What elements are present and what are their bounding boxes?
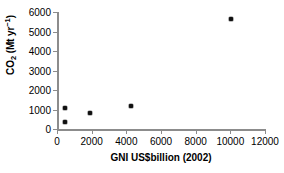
y-tick-label: 0 bbox=[45, 124, 51, 135]
x-tick-mark bbox=[230, 130, 231, 134]
y-tick-mark bbox=[53, 12, 57, 13]
y-axis-title: CO2 (Mt yr−1) bbox=[5, 0, 19, 95]
co2-vs-gni-scatter-chart: CO2 (Mt yr−1) 0100020003000400050006000 … bbox=[0, 0, 284, 173]
x-tick-label: 0 bbox=[54, 136, 60, 147]
y-tick-label: 4000 bbox=[29, 46, 51, 57]
y-tick-mark bbox=[53, 51, 57, 52]
x-tick-mark bbox=[57, 130, 58, 134]
y-tick-label: 3000 bbox=[29, 65, 51, 76]
y-tick-mark bbox=[53, 90, 57, 91]
x-tick-mark bbox=[126, 130, 127, 134]
x-tick-label: 12000 bbox=[251, 136, 279, 147]
y-axis-title-base: CO bbox=[5, 60, 16, 75]
y-tick-mark bbox=[53, 71, 57, 72]
data-point bbox=[229, 17, 233, 21]
x-axis-title: GNI US$billion (2002) bbox=[57, 152, 265, 163]
x-tick-label: 4000 bbox=[115, 136, 137, 147]
data-point bbox=[63, 106, 67, 110]
y-tick-mark bbox=[53, 32, 57, 33]
x-tick-label: 6000 bbox=[150, 136, 172, 147]
y-tick-label: 1000 bbox=[29, 104, 51, 115]
x-tick-label: 8000 bbox=[185, 136, 207, 147]
x-tick-label: 2000 bbox=[81, 136, 103, 147]
y-axis-line bbox=[57, 12, 59, 130]
y-tick-label: 6000 bbox=[29, 7, 51, 18]
x-tick-mark bbox=[196, 130, 197, 134]
x-tick-mark bbox=[265, 130, 266, 134]
y-axis-title-superscript: −1 bbox=[3, 18, 12, 26]
y-tick-label: 2000 bbox=[29, 85, 51, 96]
x-tick-label: 10000 bbox=[216, 136, 244, 147]
data-point bbox=[88, 111, 92, 115]
x-tick-mark bbox=[161, 130, 162, 134]
plot-area: 0100020003000400050006000 02000400060008… bbox=[57, 12, 265, 129]
data-point bbox=[129, 104, 133, 108]
x-tick-mark bbox=[92, 130, 93, 134]
y-tick-label: 5000 bbox=[29, 26, 51, 37]
y-axis-title-unit-open: (Mt yr bbox=[5, 27, 16, 56]
data-point bbox=[63, 120, 67, 124]
y-axis-title-subscript: 2 bbox=[9, 56, 18, 60]
y-tick-mark bbox=[53, 110, 57, 111]
